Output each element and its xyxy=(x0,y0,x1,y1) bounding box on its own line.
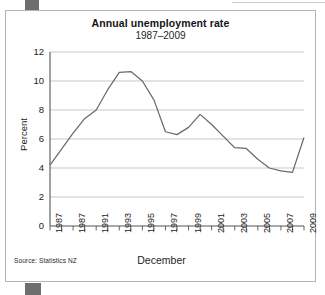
x-tick-label: 2001 xyxy=(216,199,226,233)
figure-frame: Annual unemployment rate 1987–2009 02468… xyxy=(5,10,316,282)
gridlines xyxy=(50,52,304,197)
x-tick-label: 1991 xyxy=(100,199,110,233)
source-note: Source: Statistics NZ xyxy=(14,257,77,264)
binding-tab-bottom xyxy=(25,283,41,295)
x-tick-label: 1997 xyxy=(169,199,179,233)
y-tick-label: 10 xyxy=(22,75,44,86)
x-tick-label: 1987 xyxy=(54,199,64,233)
x-tick-label: 1995 xyxy=(146,199,156,233)
x-tick-label: 1987 xyxy=(77,199,87,233)
x-tick-label: 1993 xyxy=(123,199,133,233)
y-tick-label: 2 xyxy=(22,191,44,202)
x-tick-label: 2007 xyxy=(285,199,295,233)
line-chart-svg xyxy=(6,11,317,283)
x-tick-label: 1999 xyxy=(193,199,203,233)
data-line-series xyxy=(50,72,304,173)
page-rule xyxy=(232,2,325,3)
y-tick-label: 0 xyxy=(22,220,44,231)
x-tick-label: 2003 xyxy=(239,199,249,233)
x-tick-label: 2009 xyxy=(308,199,318,233)
y-tick-label: 12 xyxy=(22,46,44,57)
y-axis-title: Percent xyxy=(18,105,29,165)
x-tick-label: 2005 xyxy=(262,199,272,233)
plot-area: 024681012 198719871991199319951997199920… xyxy=(6,11,317,283)
